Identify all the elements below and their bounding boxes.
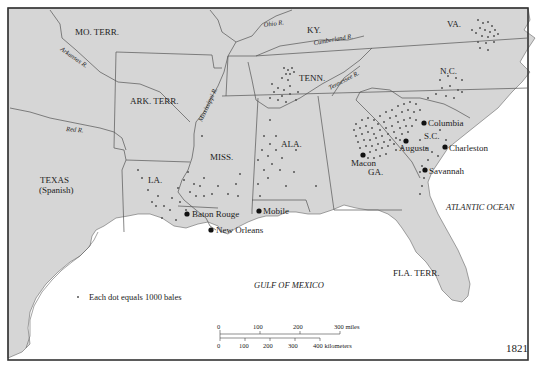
scale-km-300: 300 xyxy=(288,342,298,349)
city-label-augusta: Augusta xyxy=(399,143,429,153)
scale-miles-200: 200 xyxy=(293,323,303,330)
water-label-atlantic: ATLANTIC OCEAN xyxy=(445,202,516,212)
region-label-va: VA. xyxy=(447,19,461,29)
map-year: 1821 xyxy=(506,342,528,354)
city-marker-charleston xyxy=(442,144,447,149)
region-label-sc: S.C. xyxy=(424,131,440,141)
city-label-savannah: Savannah xyxy=(429,166,464,176)
legend-text: Each dot equals 1000 bales xyxy=(89,292,182,302)
city-label-baton-rouge: Baton Rouge xyxy=(192,209,239,219)
scale-km-0: 0 xyxy=(217,342,220,349)
region-label-fla: FLA. TERR. xyxy=(393,268,440,278)
scale-km-100: 100 xyxy=(239,342,249,349)
cotton-production-map: MO. TERR. KY. VA. TENN. N.C. ARK. TERR. … xyxy=(0,0,552,368)
city-label-mobile: Mobile xyxy=(263,206,289,216)
city-label-columbia: Columbia xyxy=(428,118,464,128)
water-label-gulf: GULF OF MEXICO xyxy=(254,280,324,290)
region-label-ark: ARK. TERR. xyxy=(130,96,179,106)
city-label-macon: Macon xyxy=(351,158,376,168)
region-label-texas: TEXAS xyxy=(40,175,69,185)
legend-dot-icon xyxy=(77,296,79,298)
region-label-la: LA. xyxy=(148,175,162,185)
scale-miles-100: 100 xyxy=(253,323,263,330)
scale-miles-0: 0 xyxy=(217,323,220,330)
scale-miles-300: 300 miles xyxy=(334,323,360,330)
city-marker-columbia xyxy=(421,120,426,125)
region-sublabel-texas: (Spanish) xyxy=(39,185,74,195)
region-label-ala: ALA. xyxy=(281,139,302,149)
region-label-mo: MO. TERR. xyxy=(75,27,119,37)
scale-km-400: 400 kilometers xyxy=(313,342,352,349)
scale-km-200: 200 xyxy=(263,342,273,349)
region-label-ky: KY. xyxy=(307,25,321,35)
city-label-charleston: Charleston xyxy=(449,143,488,153)
city-marker-savannah xyxy=(422,167,427,172)
city-label-new-orleans: New Orleans xyxy=(216,225,264,235)
region-label-ga: GA. xyxy=(368,167,383,177)
city-marker-baton-rouge xyxy=(184,211,189,216)
region-label-nc: N.C. xyxy=(440,66,457,76)
region-label-miss: MISS. xyxy=(210,152,233,162)
city-marker-mobile xyxy=(256,208,261,213)
city-marker-new-orleans xyxy=(208,227,213,232)
region-label-tenn: TENN. xyxy=(299,73,325,83)
city-marker-macon xyxy=(360,152,365,157)
